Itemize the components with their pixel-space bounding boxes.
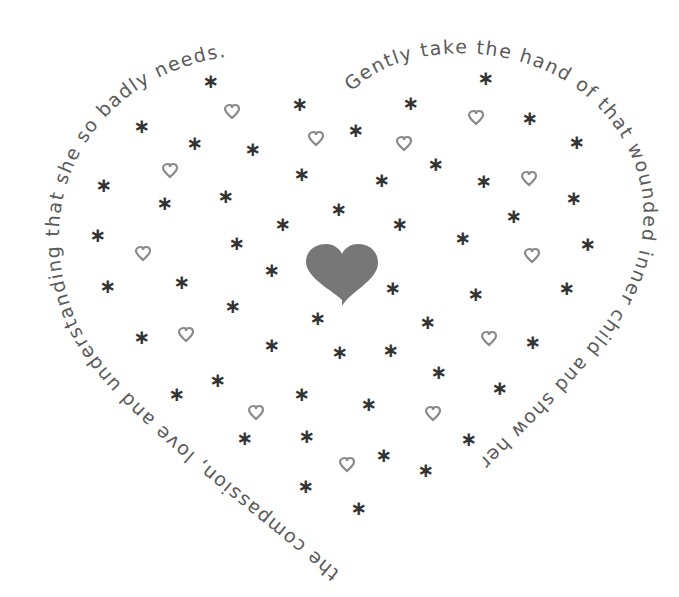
small-heart-outline-icon bbox=[309, 132, 323, 145]
asterisk-icon: ∗ bbox=[569, 130, 586, 154]
asterisk-icon: ∗ bbox=[468, 282, 485, 306]
small-heart-outline-icon bbox=[340, 458, 354, 471]
asterisk-icon: ∗ bbox=[264, 333, 281, 357]
asterisk-icon: ∗ bbox=[376, 443, 393, 467]
asterisk-icon: ∗ bbox=[461, 427, 478, 451]
asterisk-icon: ∗ bbox=[478, 66, 495, 90]
asterisk-icon: ∗ bbox=[403, 91, 420, 115]
asterisk-icon: ∗ bbox=[229, 231, 246, 255]
asterisk-icon: ∗ bbox=[294, 162, 311, 186]
small-heart-outline-icon bbox=[482, 332, 496, 345]
asterisk-icon: ∗ bbox=[169, 382, 186, 406]
message-right-side: Gently take the hand of that wounded inn… bbox=[340, 35, 662, 474]
asterisk-icon: ∗ bbox=[361, 392, 378, 416]
small-heart-outline-icon bbox=[522, 172, 536, 185]
small-heart-outline-icon bbox=[525, 249, 539, 262]
asterisk-icon: ∗ bbox=[374, 168, 391, 192]
asterisk-icon: ∗ bbox=[332, 340, 349, 364]
asterisk-icon: ∗ bbox=[218, 184, 235, 208]
center-heart-icon bbox=[306, 244, 378, 306]
asterisk-icon: ∗ bbox=[299, 424, 316, 448]
asterisk-icon: ∗ bbox=[431, 360, 448, 384]
asterisk-icon: ∗ bbox=[580, 232, 597, 256]
asterisk-icon: ∗ bbox=[351, 496, 368, 520]
asterisk-icon: ∗ bbox=[566, 186, 583, 210]
asterisk-icon: ∗ bbox=[420, 310, 437, 334]
asterisk-icon: ∗ bbox=[134, 114, 151, 138]
heart-illustration: Gently take the hand of that wounded inn… bbox=[0, 0, 679, 597]
asterisk-icon: ∗ bbox=[275, 212, 292, 236]
asterisk-icon: ∗ bbox=[264, 258, 281, 282]
asterisk-icon: ∗ bbox=[476, 169, 493, 193]
small-heart-outline-icon bbox=[163, 164, 177, 177]
small-heart-outline-icon bbox=[136, 247, 150, 260]
message-left-side: the compassion, love and understanding t… bbox=[41, 39, 343, 586]
small-heart-outline-icon bbox=[249, 406, 263, 419]
asterisk-icon: ∗ bbox=[348, 118, 365, 142]
asterisk-icon: ∗ bbox=[331, 197, 348, 221]
asterisk-icon: ∗ bbox=[559, 276, 576, 300]
small-heart-outline-icon bbox=[426, 407, 440, 420]
asterisk-icon: ∗ bbox=[506, 204, 523, 228]
asterisk-icon: ∗ bbox=[492, 376, 509, 400]
asterisk-icon: ∗ bbox=[428, 152, 445, 176]
asterisk-icon: ∗ bbox=[237, 426, 254, 450]
asterisk-icon: ∗ bbox=[134, 325, 151, 349]
asterisk-icon: ∗ bbox=[174, 270, 191, 294]
asterisk-icon: ∗ bbox=[100, 274, 117, 298]
asterisk-icon: ∗ bbox=[96, 173, 113, 197]
small-heart-outline-icon bbox=[397, 137, 411, 150]
asterisk-icon: ∗ bbox=[157, 191, 174, 215]
asterisk-icon: ∗ bbox=[383, 338, 400, 362]
asterisk-icon: ∗ bbox=[225, 294, 242, 318]
asterisk-icon: ∗ bbox=[310, 306, 327, 330]
message-right-text: Gently take the hand of that wounded inn… bbox=[340, 35, 662, 474]
asterisk-icon: ∗ bbox=[203, 69, 220, 93]
asterisk-icon: ∗ bbox=[294, 382, 311, 406]
small-heart-outline-icon bbox=[225, 105, 239, 118]
small-heart-outline-icon bbox=[179, 328, 193, 341]
asterisk-icon: ∗ bbox=[522, 106, 539, 130]
small-heart-outline-icon bbox=[469, 111, 483, 124]
asterisk-icon: ∗ bbox=[455, 226, 472, 250]
message-left-text: the compassion, love and understanding t… bbox=[41, 39, 343, 586]
asterisk-icon: ∗ bbox=[187, 131, 204, 155]
asterisk-icon: ∗ bbox=[90, 223, 107, 247]
asterisk-icon: ∗ bbox=[292, 92, 309, 116]
asterisk-icon: ∗ bbox=[392, 212, 409, 236]
asterisk-icon: ∗ bbox=[245, 137, 262, 161]
asterisk-icon: ∗ bbox=[210, 368, 227, 392]
asterisk-icon: ∗ bbox=[525, 330, 542, 354]
asterisk-icon: ∗ bbox=[418, 458, 435, 482]
asterisk-icon: ∗ bbox=[298, 474, 315, 498]
asterisk-icon: ∗ bbox=[385, 276, 402, 300]
